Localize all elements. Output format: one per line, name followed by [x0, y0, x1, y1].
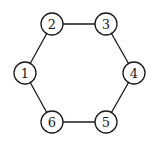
node-label: 4	[130, 66, 138, 81]
node-1: 1	[14, 62, 36, 84]
node-label: 3	[102, 17, 110, 32]
hexagon-cycle-graph: 123456	[0, 0, 156, 142]
node-5: 5	[95, 111, 117, 133]
node-3: 3	[95, 13, 117, 35]
graph-nodes: 123456	[14, 13, 145, 133]
node-label: 2	[48, 17, 56, 32]
node-4: 4	[123, 62, 145, 84]
node-6: 6	[41, 111, 63, 133]
node-label: 1	[21, 66, 29, 81]
node-2: 2	[41, 13, 63, 35]
graph-edges	[25, 24, 134, 122]
node-label: 6	[48, 115, 56, 130]
node-label: 5	[102, 115, 110, 130]
